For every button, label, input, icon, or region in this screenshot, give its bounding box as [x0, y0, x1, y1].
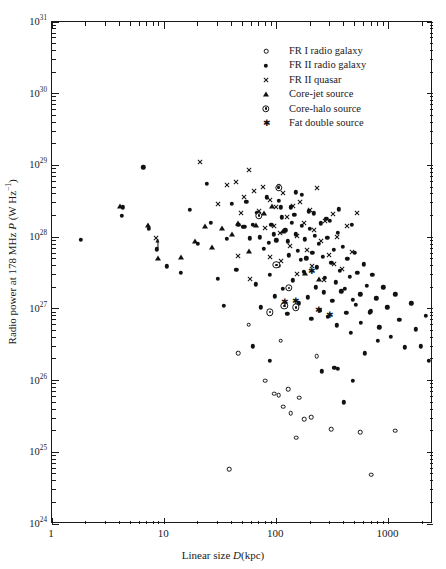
x-axis-tick — [153, 521, 154, 525]
y-axis-tick — [430, 244, 434, 245]
open-circle-marker — [264, 49, 269, 54]
data-point-core-halo — [285, 284, 292, 291]
y-axis-tick — [430, 502, 434, 503]
legend-label: FR II quasar — [289, 73, 342, 87]
data-point-arrow — [157, 240, 158, 249]
data-point-filled-circle — [229, 202, 233, 206]
data-point-filled-circle — [334, 323, 338, 327]
y-axis-tick — [52, 265, 56, 266]
data-point-filled-circle — [330, 298, 334, 302]
y-axis-tick — [430, 131, 434, 132]
y-axis-tick — [430, 463, 434, 464]
y-axis-tick — [52, 215, 56, 216]
y-tick-label: 1028 — [29, 230, 47, 242]
data-point-filled-circle — [205, 182, 209, 186]
data-point-triangle — [246, 248, 252, 253]
x-axis-tick — [231, 521, 232, 525]
data-point-cross — [326, 252, 332, 258]
data-point-cross — [241, 194, 247, 200]
x-axis-title-symbol: D — [233, 549, 241, 561]
data-point-filled-circle — [355, 270, 359, 274]
data-point-filled-circle — [369, 309, 373, 313]
data-point-open-circle — [281, 405, 286, 410]
data-point-cross — [349, 249, 355, 255]
data-point-filled-circle — [343, 287, 347, 291]
data-point-open-circle — [263, 378, 268, 383]
x-axis-tick — [329, 521, 330, 525]
y-tick-label: 1027 — [29, 302, 47, 314]
data-point-cross — [331, 261, 337, 267]
data-point-cross — [260, 184, 266, 190]
data-point-filled-circle — [358, 292, 362, 296]
data-point-triangle — [145, 222, 151, 227]
x-axis-tick — [343, 22, 344, 26]
x-axis-tick — [85, 22, 86, 26]
y-axis-tick — [52, 330, 56, 331]
x-axis-tick — [242, 521, 243, 525]
data-point-filled-circle — [290, 220, 294, 224]
y-axis-title-symbol: P — [6, 223, 18, 230]
data-point-filled-circle — [375, 338, 379, 342]
legend-item-filled-circle: FR II radio galaxy — [257, 58, 432, 72]
y-axis-tick — [52, 122, 56, 123]
y-axis-tick — [52, 383, 56, 384]
data-point-filled-circle — [268, 358, 272, 362]
x-tick-label: 10 — [158, 528, 169, 539]
y-axis-tick — [427, 524, 434, 525]
data-point-filled-circle — [328, 218, 332, 222]
y-axis-tick — [430, 143, 434, 144]
data-point-open-circle — [289, 411, 294, 416]
y-axis-tick — [427, 22, 434, 23]
data-point-cross — [284, 214, 290, 220]
data-point-open-circle — [227, 467, 232, 472]
data-point-cross — [197, 159, 203, 165]
y-axis-tick — [52, 409, 56, 410]
x-axis-title-suffix: (kpc) — [241, 549, 264, 561]
y-axis-tick — [430, 473, 434, 474]
y-axis-tick — [52, 244, 56, 245]
x-axis-tick — [197, 22, 198, 26]
y-axis-tick — [430, 330, 434, 331]
data-point-filled-circle — [215, 277, 219, 281]
y-axis-tick — [430, 37, 434, 38]
y-axis-tick — [52, 237, 59, 238]
data-point-filled-circle — [298, 258, 302, 262]
x-axis-tick — [164, 22, 165, 29]
y-axis-tick — [52, 459, 56, 460]
data-point-filled-circle — [78, 238, 82, 242]
y-tick-label: 1031 — [29, 15, 47, 27]
data-point-filled-circle — [303, 237, 307, 241]
y-axis-tick — [427, 165, 434, 166]
data-point-filled-circle — [257, 235, 261, 239]
data-point-filled-circle — [285, 312, 289, 316]
data-point-filled-circle — [349, 222, 353, 226]
data-point-cross — [339, 266, 345, 272]
data-point-filled-circle — [320, 369, 324, 373]
data-point-cross — [280, 190, 286, 196]
data-point-triangle — [253, 222, 259, 227]
legend-label: Fat double source — [289, 116, 364, 130]
x-axis-tick — [130, 521, 131, 525]
x-axis-tick — [377, 22, 378, 26]
data-point-triangle — [178, 254, 184, 259]
y-axis-tick — [52, 380, 59, 381]
y-axis-tick — [52, 25, 56, 26]
data-point-cross — [330, 211, 336, 217]
y-axis-tick — [430, 430, 434, 431]
x-axis-tick — [310, 521, 311, 525]
x-axis-tick — [354, 22, 355, 26]
data-point-filled-circle — [427, 358, 431, 362]
y-axis-tick — [52, 315, 56, 316]
y-axis-tick — [52, 187, 56, 188]
data-point-filled-circle — [342, 400, 346, 404]
data-point-filled-circle — [361, 262, 365, 266]
data-point-filled-circle — [242, 224, 246, 228]
data-point-filled-circle — [222, 304, 226, 308]
legend-marker-holder — [257, 102, 275, 116]
x-axis-tick — [251, 521, 252, 525]
data-point-filled-circle — [120, 213, 124, 217]
data-point-open-circle — [297, 395, 302, 400]
data-point-cross — [267, 197, 273, 203]
y-axis-tick — [52, 181, 56, 182]
data-point-filled-circle — [305, 295, 309, 299]
